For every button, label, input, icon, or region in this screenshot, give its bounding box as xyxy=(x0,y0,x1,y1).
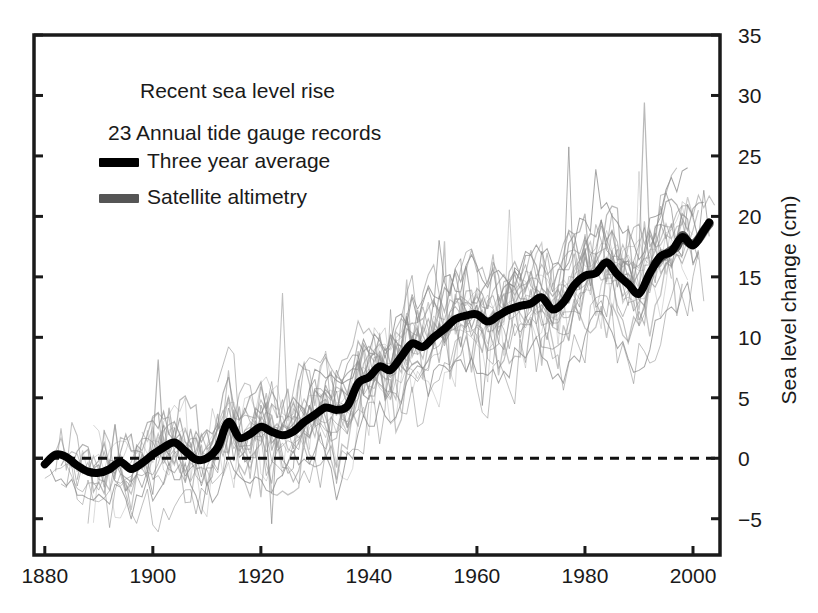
y-axis-tick-label: 25 xyxy=(738,145,761,168)
y-axis-title: Sea level change (cm) xyxy=(777,196,800,405)
x-axis-tick-label: 1980 xyxy=(562,564,609,587)
chart-subtitle: 23 Annual tide gauge records xyxy=(108,121,381,144)
chart-title: Recent sea level rise xyxy=(140,79,335,102)
y-axis-tick-label: 30 xyxy=(738,84,761,107)
y-axis-tick-label: 35 xyxy=(738,24,761,47)
y-axis-tick-label: 5 xyxy=(738,387,750,410)
y-axis-tick-label: 10 xyxy=(738,326,761,349)
sea-level-rise-chart: 1880190019201940196019802000 −5051015202… xyxy=(0,0,818,613)
x-axis-tick-label: 1920 xyxy=(238,564,285,587)
legend-label-satellite-altimetry: Satellite altimetry xyxy=(147,185,307,208)
y-axis-tick-label: −5 xyxy=(738,508,762,531)
y-axis-tick-label: 20 xyxy=(738,205,761,228)
x-axis-tick-label: 1940 xyxy=(346,564,393,587)
x-axis-tick-label: 1960 xyxy=(454,564,501,587)
x-axis-tick-label: 1880 xyxy=(21,564,68,587)
legend-swatch-three-year-average-icon xyxy=(99,158,139,167)
legend-label-three-year-average: Three year average xyxy=(147,149,330,172)
legend-swatch-satellite-altimetry-icon xyxy=(99,194,139,203)
x-axis-tick-label: 2000 xyxy=(670,564,717,587)
chart-figure: 1880190019201940196019802000 −5051015202… xyxy=(0,0,818,613)
y-axis-tick-label: 15 xyxy=(738,266,761,289)
y-axis-tick-label: 0 xyxy=(738,447,750,470)
x-axis-tick-label: 1900 xyxy=(129,564,176,587)
